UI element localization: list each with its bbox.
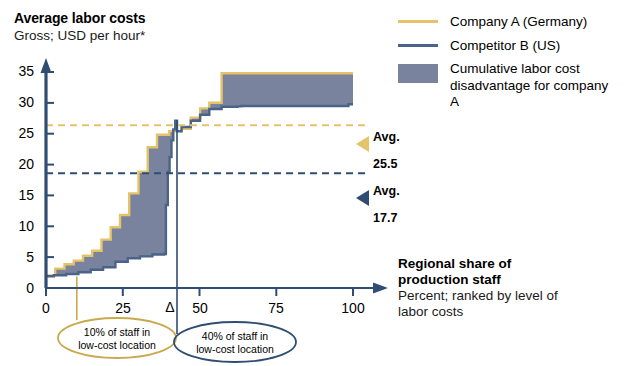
x-tick-label-100: 100 (336, 300, 370, 316)
x-axis-title-block: Regional share of production staff Perce… (398, 256, 628, 320)
x-tick-label-75: 75 (259, 300, 293, 316)
chart-figure: Average labor costs Gross; USD per hour*… (0, 0, 632, 366)
x-axis-title: Regional share of production staff (398, 256, 548, 288)
avg-label-text-company-a: Avg. (373, 130, 400, 144)
x-axis-ticks (46, 288, 353, 296)
x-tick-label-50: 50 (183, 300, 217, 316)
avg-marker-competitor-b: Avg. 17.7 (356, 171, 400, 225)
legend-item-competitor-b: Competitor B (US) (398, 38, 630, 55)
avg-value-competitor-b: 17.7 (373, 211, 397, 225)
avg-label-text-competitor-b: Avg. (373, 184, 400, 198)
chart-subtitle: Gross; USD per hour* (14, 27, 314, 44)
legend-key-competitor-b (398, 38, 442, 47)
callout-text-10-percent: 10% of staff in low-cost location (58, 326, 176, 351)
x-tick-label-25: 25 (106, 300, 140, 316)
y-tick-label-30: 30 (8, 94, 34, 110)
legend-item-company-a: Company A (Germany) (398, 14, 630, 31)
legend-line-swatch-company-a (398, 20, 438, 23)
y-tick-label-25: 25 (8, 125, 34, 141)
legend-item-disadvantage: Cumulative labor cost disadvantage for c… (398, 61, 630, 111)
y-tick-label-0: 0 (8, 280, 34, 296)
legend-key-disadvantage (398, 61, 442, 83)
y-tick-label-35: 35 (8, 63, 34, 79)
chart-legend: Company A (Germany) Competitor B (US) Cu… (398, 14, 630, 118)
x-axis-delta-label: Δ (160, 299, 180, 315)
avg-marker-company-a: Avg. 25.5 (356, 117, 400, 171)
avg-label-competitor-b: Avg. 17.7 (369, 171, 400, 225)
x-axis-arrow-icon (373, 283, 388, 294)
legend-label-disadvantage: Cumulative labor cost disadvantage for c… (442, 61, 620, 111)
avg-value-company-a: 25.5 (373, 157, 397, 171)
callout-text-40-percent: 40% of staff in low-cost location (174, 330, 296, 355)
y-tick-label-15: 15 (8, 187, 34, 203)
legend-label-company-a: Company A (Germany) (442, 14, 587, 31)
avg-triangle-icon-competitor-b (356, 190, 369, 206)
page-title: Average labor costs (14, 10, 314, 27)
legend-line-swatch-competitor-b (398, 44, 438, 47)
legend-label-competitor-b: Competitor B (US) (442, 38, 560, 55)
avg-label-company-a: Avg. 25.5 (369, 117, 400, 171)
title-block: Average labor costs Gross; USD per hour* (14, 10, 314, 44)
y-axis-arrow-icon (41, 58, 52, 73)
legend-area-swatch-disadvantage (398, 64, 438, 83)
y-tick-label-5: 5 (8, 249, 34, 265)
y-tick-label-20: 20 (8, 156, 34, 172)
x-axis-subtitle: Percent; ranked by level of labor costs (398, 288, 570, 320)
avg-triangle-icon-company-a (356, 136, 369, 152)
y-tick-label-10: 10 (8, 218, 34, 234)
cumulative-disadvantage-band (46, 73, 353, 275)
x-tick-label-0: 0 (29, 300, 63, 316)
legend-key-company-a (398, 14, 442, 23)
